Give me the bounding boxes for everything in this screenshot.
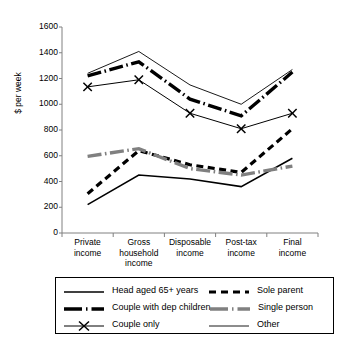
legend-item-head-aged-65: Head aged 65+ years [56, 281, 207, 298]
legend-row: Couple with dep children Single person [56, 298, 333, 315]
legend-swatch-dash-dot-gray [208, 301, 252, 313]
income-distribution-line-chart: $ per week 16001400120010008006004002000… [0, 0, 342, 354]
legend-item-single-person: Single person [208, 298, 333, 315]
x-category-label: Post-tax income [216, 237, 267, 279]
legend-swatch-dashed-bold [207, 284, 251, 296]
series-line [88, 80, 293, 129]
legend-label: Couple only [112, 319, 160, 329]
x-axis-category-labels: Private incomeGross household incomeDisp… [62, 237, 318, 279]
legend-row: Couple only Other [56, 315, 333, 332]
series-line [88, 149, 293, 175]
legend-swatch-solid-hairline [207, 318, 251, 330]
legend-swatch-solid-marker-x [62, 318, 106, 330]
legend-label: Sole parent [257, 285, 303, 295]
chart-legend: Head aged 65+ years Sole parent Couple w… [55, 277, 334, 334]
legend-label: Head aged 65+ years [112, 285, 198, 295]
legend-label: Couple with dep children [112, 302, 211, 312]
series-line [88, 129, 293, 194]
axis-lines [62, 27, 318, 233]
legend-item-sole-parent: Sole parent [207, 281, 333, 298]
legend-swatch-dash-dot-thick [62, 301, 106, 313]
legend-label: Single person [258, 302, 313, 312]
x-category-label: Disposable income [164, 237, 215, 279]
legend-label: Other [257, 319, 280, 329]
x-category-label: Private income [62, 237, 113, 279]
x-category-label: Gross household income [113, 237, 164, 279]
legend-item-couple-only: Couple only [56, 315, 207, 332]
series-markers [83, 76, 296, 133]
x-category-label: Final income [267, 237, 318, 279]
legend-row: Head aged 65+ years Sole parent [56, 281, 333, 298]
legend-swatch-solid-thin [62, 284, 106, 296]
legend-item-couple-with-dep-children: Couple with dep children [56, 298, 208, 315]
series-line [88, 62, 293, 116]
legend-item-other: Other [207, 315, 333, 332]
series-lines [88, 51, 293, 204]
